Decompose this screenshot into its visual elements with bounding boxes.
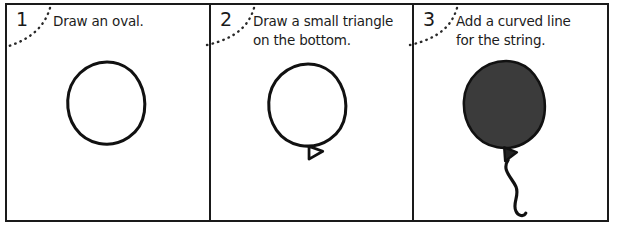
instruction-text-step-1: Draw an oval.: [53, 12, 203, 31]
oval-path: [68, 62, 145, 144]
instruction-line: Draw an oval.: [53, 12, 203, 31]
triangle-knot-path: [309, 146, 323, 159]
balloon-string-path: [506, 160, 526, 215]
instruction-text-step-2: Draw a small triangle on the bottom.: [253, 12, 411, 49]
step-number-3: 3: [423, 6, 435, 32]
step-number-1: 1: [16, 6, 28, 32]
balloon-body-path: [464, 61, 545, 148]
instruction-text-step-3: Add a curved line for the string.: [456, 12, 608, 49]
triangle-knot-path: [504, 147, 517, 161]
instruction-line: Draw a small triangle: [253, 12, 411, 31]
panel-frame: 1 Draw an oval. 2 Draw a small triangle …: [5, 3, 609, 222]
instruction-line: on the bottom.: [253, 31, 411, 50]
drawing-tutorial-sheet: 1 Draw an oval. 2 Draw a small triangle …: [0, 0, 618, 227]
instruction-line: Add a curved line: [456, 12, 608, 31]
step-number-2: 2: [220, 6, 232, 32]
tutorial-panel-step-1: 1 Draw an oval.: [7, 5, 209, 220]
instruction-line: for the string.: [456, 31, 608, 50]
drawing-oval-step-1: [7, 5, 209, 220]
oval-path: [269, 64, 346, 146]
tutorial-panel-step-3: 3 Add a curved line for the string.: [412, 5, 611, 220]
tutorial-panel-step-2: 2 Draw a small triangle on the bottom.: [209, 5, 412, 220]
